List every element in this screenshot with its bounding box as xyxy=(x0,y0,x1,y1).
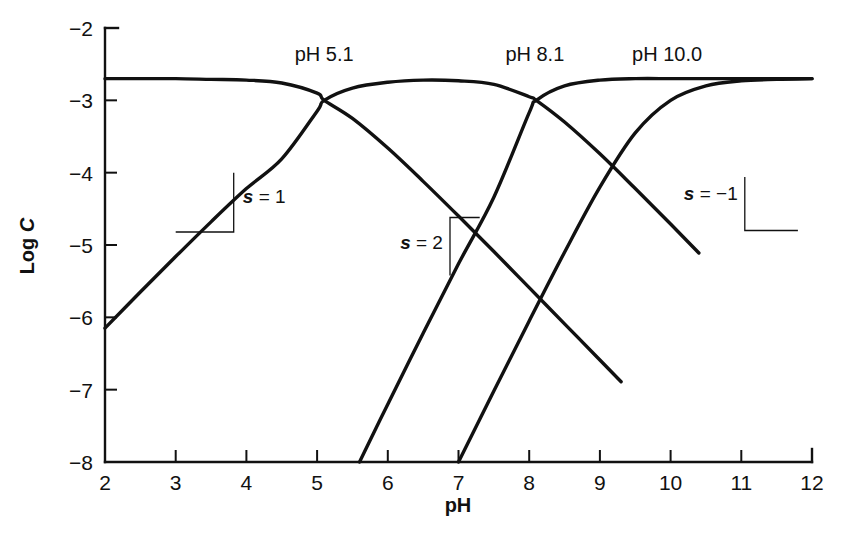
x-tick-label: 4 xyxy=(241,471,253,494)
y-tick-label: −7 xyxy=(69,379,93,402)
slope-triangle xyxy=(450,218,480,276)
slope-label: s = −1 xyxy=(684,183,738,204)
x-axis-title: pH xyxy=(445,494,472,516)
y-tick-label: −3 xyxy=(69,89,93,112)
x-tick-label: 7 xyxy=(453,471,465,494)
y-tick-label-group: −2−3−4−5−6−7−8 xyxy=(69,17,93,474)
x-tick-label: 11 xyxy=(730,471,752,494)
slope-triangle xyxy=(176,173,234,232)
x-tick-label-group: 23456789101112 xyxy=(99,471,824,494)
x-tick-label: 10 xyxy=(659,471,682,494)
x-tick-label: 9 xyxy=(594,471,606,494)
species-curve xyxy=(360,79,812,462)
y-tick-label: −8 xyxy=(69,451,93,474)
y-tick-group xyxy=(105,100,117,389)
chart-canvas: −2−3−4−5−6−7−8 23456789101112 pH 5.1pH 8… xyxy=(0,0,854,547)
x-tick-label: 6 xyxy=(382,471,394,494)
slope-triangle xyxy=(745,177,798,231)
curve-label: pH 8.1 xyxy=(505,43,564,65)
y-axis-title: Log C xyxy=(16,217,38,274)
y-tick-label: −4 xyxy=(69,162,93,185)
slope-label: s = 2 xyxy=(400,232,443,253)
slope-label: s = 1 xyxy=(243,186,286,207)
pka-annotation-group: pH 5.1pH 8.1pH 10.0 xyxy=(295,43,702,65)
curve-label: pH 10.0 xyxy=(632,43,702,65)
y-tick-label: −6 xyxy=(69,306,93,329)
y-tick-label: −2 xyxy=(69,17,93,40)
curve-label: pH 5.1 xyxy=(295,43,354,65)
x-tick-label: 5 xyxy=(311,471,323,494)
y-tick-label: −5 xyxy=(69,234,93,257)
species-curve xyxy=(105,80,699,328)
x-tick-label: 2 xyxy=(99,471,111,494)
series-curve-group xyxy=(105,79,812,462)
x-tick-label: 8 xyxy=(523,471,535,494)
x-tick-label: 12 xyxy=(800,471,823,494)
log-concentration-diagram: −2−3−4−5−6−7−8 23456789101112 pH 5.1pH 8… xyxy=(0,0,854,547)
x-tick-label: 3 xyxy=(170,471,182,494)
axes-group xyxy=(105,28,812,462)
species-curve xyxy=(105,79,621,382)
